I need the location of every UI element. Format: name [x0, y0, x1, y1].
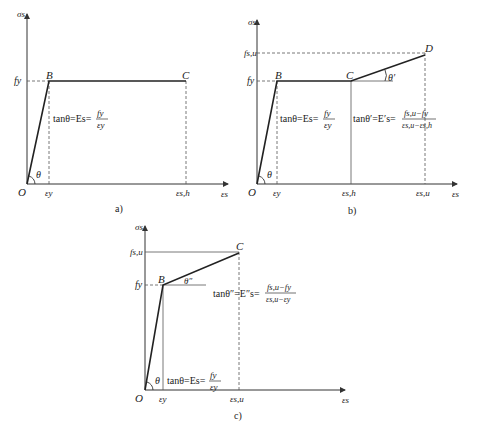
esh-label: εs,h [342, 188, 356, 198]
ey-label: εy [45, 188, 53, 198]
point-b: B [158, 273, 165, 285]
fsu-label: fs,u [244, 48, 257, 58]
esh-label: εs,h [176, 188, 190, 198]
fy-label: fy [14, 75, 22, 86]
formula1-den: εs,u−εy [266, 295, 291, 304]
caption-a: a) [115, 203, 123, 215]
x-axis-label: εs [221, 189, 229, 199]
formula1-lhs: tanθ″=E″s= [213, 288, 260, 299]
fsu-label: fs,u [130, 247, 143, 257]
formula2-lhs: tanθ=Es= [167, 375, 206, 386]
angle-theta: θ [155, 375, 160, 386]
ey-label: εy [159, 394, 167, 404]
diagram-canvas: σs εs O fy εy εs,h B C θ tanθ=Es= fy εy … [0, 0, 477, 432]
formula2-num: fs,u−fy [404, 108, 428, 118]
origin-label: O [18, 186, 26, 198]
formula-lhs: tanθ=Es= [53, 113, 92, 124]
ey-label: εy [273, 188, 281, 198]
point-c: C [236, 240, 244, 252]
y-axis-label: σs [248, 17, 256, 27]
origin-label: O [248, 186, 256, 198]
caption-b: b) [348, 205, 356, 217]
point-b: B [46, 69, 53, 81]
origin-label: O [135, 392, 143, 404]
esu-label: εs,u [230, 394, 244, 404]
esu-label: εs,u [416, 188, 430, 198]
point-d: D [424, 42, 433, 54]
point-c: C [182, 69, 190, 81]
formula1-num: fs,u−fy [267, 282, 291, 292]
formula1-num: fy [324, 108, 331, 118]
formula2-den: εs,u−εs,h [402, 121, 432, 130]
formula-num: fy [97, 108, 104, 118]
formula2-den: εy [210, 382, 218, 392]
formula2-num: fy [210, 370, 217, 380]
formula2-lhs: tanθ′=E′s= [353, 113, 396, 124]
panel-a: σs εs O fy εy εs,h B C θ tanθ=Es= fy εy … [14, 9, 229, 215]
fy-label: fy [247, 75, 255, 86]
panel-b: σs εs O fs,u fy εy εs,h εs,u B C D θ θ′ … [244, 17, 460, 217]
formula1-den: εy [324, 120, 332, 130]
x-axis-label: εs [452, 189, 460, 199]
formula1-lhs: tanθ=Es= [280, 113, 319, 124]
caption-c: c) [234, 410, 242, 422]
angle-theta: θ [267, 169, 272, 180]
formula-den: εy [97, 120, 105, 130]
panel-c: σs εs O fs,u fy εy εs,u B C θ θ″ tanθ″=E… [130, 222, 350, 422]
stress-strain-diagrams: σs εs O fy εy εs,h B C θ tanθ=Es= fy εy … [0, 0, 477, 432]
stress-strain-curve [27, 81, 186, 184]
y-axis-label: σs [17, 9, 25, 19]
point-b: B [275, 69, 282, 81]
y-axis-label: σs [135, 222, 143, 232]
fy-label: fy [135, 279, 143, 290]
point-c: C [346, 69, 354, 81]
angle-theta-prime: θ′ [388, 72, 396, 83]
x-axis-label: εs [342, 395, 350, 405]
angle-theta: θ [36, 169, 41, 180]
angle-theta-double-prime: θ″ [184, 276, 192, 286]
